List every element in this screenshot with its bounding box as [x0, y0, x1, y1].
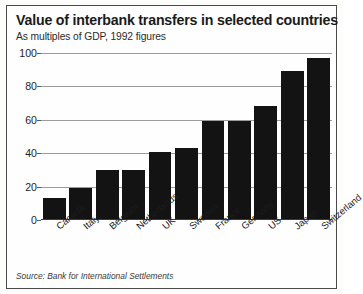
bar-slot [94, 53, 120, 220]
y-tick-label-60: 60 [25, 114, 37, 126]
plot-area: 020406080100 [41, 53, 332, 220]
bar-slot [279, 53, 305, 220]
x-axis-labels: CanadaItalyBelgiumNetherlandsUKSwedenFra… [41, 221, 332, 267]
bar-slot [41, 53, 67, 220]
bar-slot [200, 53, 226, 220]
y-tick-label-100: 100 [19, 47, 37, 59]
source-note: Source: Bank for International Settlemen… [16, 271, 173, 281]
y-tick-label-0: 0 [31, 214, 37, 226]
bar-slot [120, 53, 146, 220]
bar-slot [306, 53, 332, 220]
y-tick-label-20: 20 [25, 181, 37, 193]
bar-germany [228, 121, 251, 220]
chart-subtitle: As multiples of GDP, 1992 figures [16, 31, 166, 42]
y-tick-label-40: 40 [25, 147, 37, 159]
bar-slot [253, 53, 279, 220]
bar-switzerland [307, 58, 330, 220]
bar-series [41, 53, 332, 220]
bar-japan [281, 71, 304, 220]
y-tick-label-80: 80 [25, 80, 37, 92]
chart-title: Value of interbank transfers in selected… [16, 12, 338, 28]
bar-slot [226, 53, 252, 220]
bar-belgium [96, 170, 119, 220]
bar-sweden [175, 148, 198, 220]
bar-slot [67, 53, 93, 220]
